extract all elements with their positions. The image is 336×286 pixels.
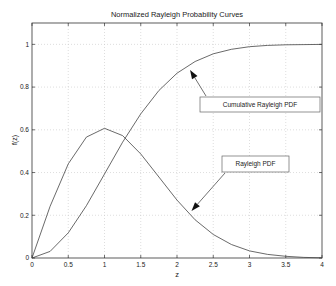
rayleigh-chart: 00.511.522.533.5400.20.40.60.81 Cumulati… xyxy=(0,0,336,286)
grid-lines xyxy=(32,23,322,258)
chart-title: Normalized Rayleigh Probability Curves xyxy=(111,10,243,19)
y-tick-label: 0.4 xyxy=(20,169,29,176)
series-line xyxy=(32,44,322,258)
y-tick-label: 0.2 xyxy=(20,212,29,219)
x-tick-label: 2 xyxy=(175,261,179,268)
x-tick-label: 3 xyxy=(248,261,252,268)
x-tick-label: 2.5 xyxy=(209,261,218,268)
x-tick-label: 0.5 xyxy=(64,261,73,268)
axis-ticks: 00.511.522.533.5400.20.40.60.81 xyxy=(20,23,324,268)
x-tick-label: 1 xyxy=(103,261,107,268)
x-tick-label: 3.5 xyxy=(281,261,290,268)
annotation-arrow xyxy=(195,78,206,96)
y-tick-label: 0 xyxy=(25,254,29,261)
y-axis-label: f(z) xyxy=(11,135,19,145)
x-tick-label: 1.5 xyxy=(136,261,145,268)
annotation-arrow xyxy=(197,173,225,204)
x-tick-label: 0 xyxy=(30,261,34,268)
arrowhead-icon xyxy=(190,70,197,79)
x-tick-label: 4 xyxy=(320,261,324,268)
annotations: Cumulative Rayleigh PDFRayleigh PDF xyxy=(190,70,320,211)
annotation-label: Cumulative Rayleigh PDF xyxy=(223,101,297,109)
series-line xyxy=(32,128,322,258)
y-tick-label: 0.8 xyxy=(20,83,29,90)
data-series xyxy=(32,44,322,258)
y-tick-label: 1 xyxy=(25,41,29,48)
annotation-label: Rayleigh PDF xyxy=(235,160,275,168)
y-tick-label: 0.6 xyxy=(20,126,29,133)
x-axis-label: z xyxy=(175,270,179,279)
